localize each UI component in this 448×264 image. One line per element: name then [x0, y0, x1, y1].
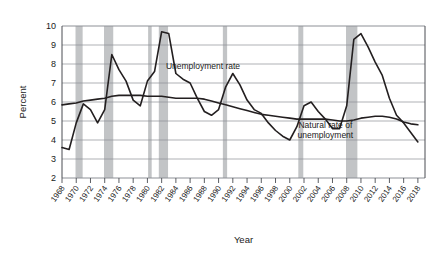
natural-rate-label: Natural rate of — [298, 120, 352, 130]
y-tick-4: 4 — [51, 135, 56, 145]
natural-rate-line — [62, 95, 418, 124]
x-tick-label-2002: 2002 — [291, 184, 309, 204]
x-tick-label-1988: 1988 — [191, 184, 209, 204]
y-tick-6: 6 — [51, 97, 56, 107]
y-tick-5: 5 — [51, 116, 56, 126]
y-tick-2: 2 — [51, 173, 56, 183]
x-tick-label-2006: 2006 — [320, 184, 338, 204]
chart-annotations: Unemployment rateNatural rate ofunemploy… — [166, 61, 354, 140]
y-tick-10: 10 — [46, 21, 56, 31]
x-tick-label-2014: 2014 — [376, 184, 394, 204]
x-tick-label-2018: 2018 — [405, 184, 423, 204]
x-tick-label-2010: 2010 — [348, 184, 366, 204]
x-tick-labels: 1968197019721974197619781980198219841986… — [49, 184, 423, 204]
x-tick-label-1986: 1986 — [177, 184, 195, 204]
y-axis-title: Percent — [17, 85, 28, 118]
data-series — [62, 32, 418, 150]
unemployment-rate-label: Unemployment rate — [166, 61, 240, 71]
x-axis-title: Year — [234, 234, 253, 245]
x-tick-label-1976: 1976 — [106, 184, 124, 204]
x-tick-label-2012: 2012 — [362, 184, 380, 204]
y-gridlines — [62, 26, 425, 178]
x-tick-label-1984: 1984 — [163, 184, 181, 204]
unemployment-chart: 2345678910196819701972197419761978198019… — [0, 0, 448, 264]
y-tick-9: 9 — [51, 40, 56, 50]
x-tick-label-1968: 1968 — [49, 184, 67, 204]
axis-titles: PercentYear — [17, 85, 253, 245]
y-tick-8: 8 — [51, 59, 56, 69]
x-tick-label-1972: 1972 — [78, 184, 96, 204]
chart-canvas: 2345678910196819701972197419761978198019… — [0, 0, 448, 264]
x-tick-label-1994: 1994 — [234, 184, 252, 204]
natural-rate-label-line2: unemployment — [297, 130, 353, 140]
y-tick-3: 3 — [51, 154, 56, 164]
x-tick-label-2004: 2004 — [305, 184, 323, 204]
x-tick-label-1970: 1970 — [63, 184, 81, 204]
x-tick-label-1980: 1980 — [134, 184, 152, 204]
x-tick-label-1982: 1982 — [149, 184, 167, 204]
unemployment-rate-line — [62, 32, 418, 150]
x-tick-label-1978: 1978 — [120, 184, 138, 204]
x-tick-label-1990: 1990 — [206, 184, 224, 204]
y-tick-labels: 2345678910 — [46, 21, 56, 183]
x-tick-label-2016: 2016 — [391, 184, 409, 204]
x-tick-label-1992: 1992 — [220, 184, 238, 204]
x-tick-label-1996: 1996 — [248, 184, 266, 204]
x-tick-label-1998: 1998 — [263, 184, 281, 204]
x-tick-label-2008: 2008 — [334, 184, 352, 204]
x-tick-label-1974: 1974 — [92, 184, 110, 204]
x-tick-label-2000: 2000 — [277, 184, 295, 204]
y-tick-7: 7 — [51, 78, 56, 88]
x-ticks — [62, 178, 418, 183]
